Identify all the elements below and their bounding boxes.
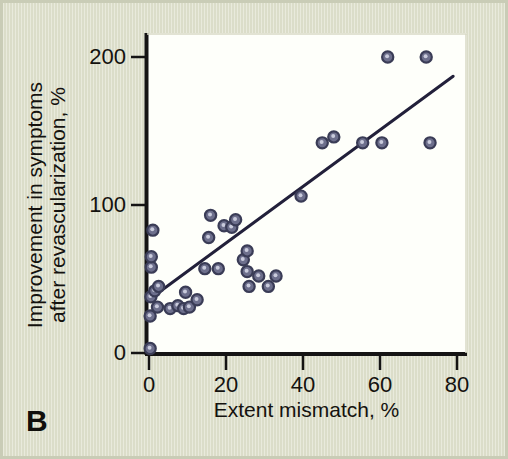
data-point-highlight xyxy=(195,297,199,301)
data-points xyxy=(145,51,436,354)
data-point-highlight xyxy=(379,140,383,144)
data-point-highlight xyxy=(202,266,206,270)
x-tick-label: 20 xyxy=(214,374,238,396)
data-point-highlight xyxy=(241,257,245,261)
data-point-highlight xyxy=(148,313,152,317)
data-point-highlight xyxy=(245,248,249,252)
data-point-highlight xyxy=(247,284,251,288)
data-point-highlight xyxy=(149,264,153,268)
x-tick-label: 40 xyxy=(291,374,315,396)
data-point-highlight xyxy=(149,254,153,258)
data-point-highlight xyxy=(148,346,152,350)
data-point-highlight xyxy=(208,213,212,217)
data-point-highlight xyxy=(183,290,187,294)
data-point-highlight xyxy=(427,140,431,144)
data-point-highlight xyxy=(298,193,302,197)
data-point-highlight xyxy=(168,306,172,310)
regression-line xyxy=(153,76,453,297)
data-point-highlight xyxy=(187,304,191,308)
figure-panel-b: 0100200 020406080 Extent mismatch, % Imp… xyxy=(0,0,508,459)
data-point-highlight xyxy=(245,269,249,273)
data-point-highlight xyxy=(424,54,428,58)
x-tick-label: 60 xyxy=(368,374,392,396)
tick-marks xyxy=(131,57,457,370)
data-point-highlight xyxy=(320,140,324,144)
data-point-highlight xyxy=(221,223,225,227)
data-point-highlight xyxy=(266,284,270,288)
data-point-highlight xyxy=(216,266,220,270)
x-tick-label: 80 xyxy=(445,374,469,396)
panel-label: B xyxy=(26,404,48,438)
scatter-plot-canvas xyxy=(0,0,508,459)
trendline xyxy=(153,76,453,297)
data-point-highlight xyxy=(156,284,160,288)
data-point-highlight xyxy=(331,134,335,138)
x-tick-label: 0 xyxy=(143,374,155,396)
data-point-highlight xyxy=(155,304,159,308)
y-axis-title-line-1: Improvement in symptoms xyxy=(24,82,47,328)
y-axis-title-line-2: after revascularization, % xyxy=(47,87,70,323)
data-point-highlight xyxy=(273,273,277,277)
data-point-highlight xyxy=(360,140,364,144)
y-axis-title: Improvement in symptoms after revascular… xyxy=(24,40,70,370)
data-point-highlight xyxy=(150,227,154,231)
data-point-highlight xyxy=(206,235,210,239)
data-point-highlight xyxy=(233,217,237,221)
data-point-highlight xyxy=(256,273,260,277)
x-axis-title: Extent mismatch, % xyxy=(146,398,467,422)
data-point-highlight xyxy=(385,54,389,58)
